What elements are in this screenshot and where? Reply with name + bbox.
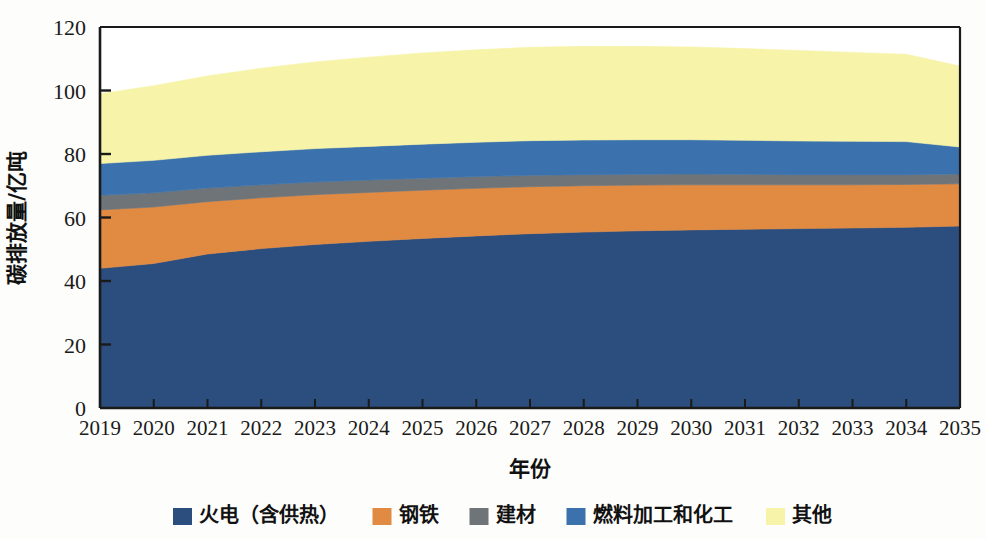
x-tick-label: 2022 [240, 416, 282, 440]
legend-swatch-icon [470, 508, 489, 525]
legend-label: 燃料加工和化工 [593, 503, 733, 527]
x-tick-label: 2030 [670, 416, 712, 440]
x-tick-label: 2031 [724, 416, 766, 440]
legend-label: 建材 [496, 503, 536, 527]
x-tick-label: 2026 [455, 416, 497, 440]
legend-swatch-icon [766, 508, 785, 525]
legend-swatch-icon [373, 508, 392, 525]
carbon-emissions-stacked-area-chart: 020406080100120 201920202021202220232024… [0, 0, 986, 539]
legend-label: 钢铁 [399, 503, 439, 527]
x-tick-label: 2034 [885, 416, 928, 440]
y-tick-label: 40 [64, 269, 86, 294]
y-axis-title: 碳排放量/亿吨 [5, 151, 29, 285]
x-tick-label: 2029 [617, 416, 659, 440]
x-tick-label: 2020 [133, 416, 175, 440]
legend-swatch-icon [173, 508, 192, 525]
legend-label: 火电（含供热） [199, 503, 339, 527]
x-axis-title: 年份 [509, 457, 552, 481]
x-tick-label: 2024 [348, 416, 391, 440]
legend-label: 其他 [792, 503, 832, 527]
x-tick-label: 2027 [509, 416, 551, 440]
x-tick-label: 2033 [832, 416, 874, 440]
chart-canvas: 020406080100120 201920202021202220232024… [0, 0, 986, 539]
x-tick-label: 2028 [563, 416, 605, 440]
y-tick-label: 80 [64, 142, 86, 167]
x-tick-label: 2021 [187, 416, 229, 440]
x-tick-label: 2032 [778, 416, 820, 440]
y-tick-label: 120 [53, 15, 86, 40]
stacked-areas-group [100, 46, 960, 408]
area-series-0 [100, 226, 960, 408]
legend-swatch-icon [567, 508, 586, 525]
x-tick-label: 2025 [402, 416, 444, 440]
y-tick-label: 20 [64, 333, 86, 358]
y-tick-label: 100 [53, 79, 86, 104]
x-tick-label: 2019 [79, 416, 121, 440]
y-tick-label: 60 [64, 206, 86, 231]
x-tick-label: 2023 [294, 416, 336, 440]
x-tick-label: 2035 [939, 416, 981, 440]
